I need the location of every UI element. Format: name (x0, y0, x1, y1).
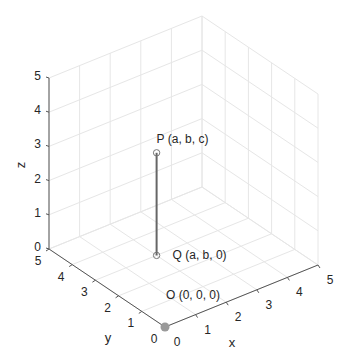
y-tick-label: 1 (127, 316, 134, 330)
z-tick (46, 77, 49, 78)
x-tick-label: 5 (327, 273, 334, 287)
grid-line (202, 153, 318, 231)
grid-line (49, 153, 202, 215)
y-tick-label: 0 (151, 332, 158, 346)
y-tick (92, 280, 95, 282)
point-q-label: Q (a, b, 0) (173, 248, 227, 262)
x-tick (226, 302, 228, 305)
y-axis-line (49, 249, 165, 327)
z-tick-label: 5 (34, 69, 41, 83)
x-tick (196, 315, 198, 318)
x-tick-label: 1 (204, 323, 211, 337)
grid-line (49, 16, 202, 78)
z-tick-label: 4 (34, 103, 41, 117)
grid-line (202, 16, 318, 94)
z-axis-label: z (13, 162, 28, 169)
y-tick-label: 3 (81, 285, 88, 299)
point-o-marker (161, 323, 170, 332)
x-tick (318, 265, 320, 268)
point-o-label: O (0, 0, 0) (166, 288, 220, 302)
grid-line (202, 50, 318, 128)
x-tick-label: 3 (265, 298, 272, 312)
grid-line (49, 119, 202, 181)
point-p-label: P (a, b, c) (157, 132, 209, 146)
x-tick (257, 290, 259, 293)
y-tick (139, 311, 142, 313)
x-tick-label: 2 (235, 310, 242, 324)
grid-line (202, 84, 318, 162)
y-tick (116, 296, 119, 298)
y-tick-label: 5 (35, 254, 42, 268)
x-tick-label: 0 (174, 335, 181, 349)
grid-line (49, 50, 202, 112)
y-tick-label: 2 (104, 301, 111, 315)
x-axis-label: x (229, 335, 236, 350)
grid-line (119, 234, 272, 296)
z-tick-label: 0 (34, 240, 41, 254)
chart-3d-plot: 012345012345012345 x y z P (a, b, c)Q (a… (0, 0, 349, 362)
z-tick-label: 3 (34, 137, 41, 151)
y-axis-label: y (105, 330, 112, 345)
grid-line (49, 187, 202, 249)
y-tick (69, 265, 72, 267)
x-tick (287, 277, 289, 280)
grid-lines (49, 16, 318, 327)
grid-line (202, 119, 318, 197)
y-tick-label: 4 (58, 270, 65, 284)
z-tick-label: 2 (34, 172, 41, 186)
grid-line (171, 199, 287, 277)
z-tick-label: 1 (34, 206, 41, 220)
x-tick-label: 4 (296, 285, 303, 299)
